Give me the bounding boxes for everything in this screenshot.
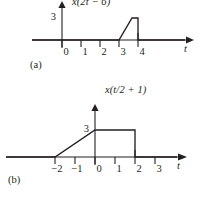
panel-caption-a: (a) xyxy=(30,60,42,71)
signal-figure: x(2t − 6) 3 0 1 2 3 4 t (a) x( xyxy=(0,0,204,197)
x-tick-label-b-2: 2 xyxy=(132,164,146,175)
y-value-label-b-3: 3 xyxy=(75,124,89,135)
x-tick-label-a-1: 1 xyxy=(78,47,92,58)
signal-label-b: x(t/2 + 1) xyxy=(105,85,146,96)
signal-label-a: x(2t − 6) xyxy=(72,0,110,8)
x-tick-label-b-3: 3 xyxy=(152,164,166,175)
y-value-label-a-3: 3 xyxy=(42,12,56,23)
x-tick-label-b-1: 1 xyxy=(112,164,126,175)
plot-panel-b: x(t/2 + 1) 3 −2 −1 0 1 2 3 t (b) xyxy=(0,97,204,197)
x-tick-label-a-3: 3 xyxy=(116,47,130,58)
panel-caption-b: (b) xyxy=(8,175,20,186)
y-axis-arrow-b xyxy=(91,104,98,111)
x-tick-label-a-4: 4 xyxy=(135,47,149,58)
x-axis-arrow-a xyxy=(186,36,194,43)
plot-panel-a: x(2t − 6) 3 0 1 2 3 4 t (a) xyxy=(0,0,204,100)
y-axis-arrow-a xyxy=(58,1,65,8)
plot-b-canvas xyxy=(0,97,204,197)
waveform-b xyxy=(6,130,177,157)
x-tick-label-b-0: 0 xyxy=(92,164,106,175)
x-tick-label-b-neg2: −2 xyxy=(50,164,64,175)
x-axis-label-b: t xyxy=(177,161,180,172)
x-tick-label-b-neg1: −1 xyxy=(70,164,84,175)
x-axis-label-a: t xyxy=(184,44,187,55)
x-tick-label-a-2: 2 xyxy=(97,47,111,58)
x-tick-label-a-0: 0 xyxy=(59,47,73,58)
